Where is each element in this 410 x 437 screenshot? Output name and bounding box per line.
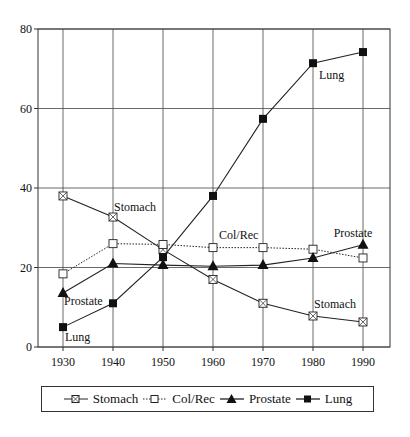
- y-tick-label: 0: [26, 340, 32, 354]
- annotation-label: Stomach: [114, 200, 156, 214]
- data-point: [59, 270, 67, 278]
- data-point: [209, 192, 217, 200]
- data-point: [209, 244, 217, 252]
- data-point: [109, 240, 117, 248]
- y-tick-label: 40: [20, 181, 32, 195]
- legend-item-prostate: Prostate: [219, 391, 291, 407]
- line-chart: 0204060801930194019501960197019801990 St…: [0, 0, 410, 380]
- annotation-label: Stomach: [314, 297, 356, 311]
- y-tick-label: 20: [20, 261, 32, 275]
- y-tick-label: 80: [20, 22, 32, 36]
- data-point: [359, 48, 367, 56]
- prostate-marker-icon: [219, 393, 245, 405]
- legend-item-stomach: Stomach: [63, 391, 139, 407]
- x-tick-label: 1980: [301, 355, 325, 369]
- annotation-label: Prostate: [64, 294, 103, 308]
- y-tick-label: 60: [20, 102, 32, 116]
- legend-item-colrec: Col/Rec: [142, 391, 215, 407]
- data-point: [108, 258, 119, 268]
- data-point: [208, 260, 219, 270]
- annotation-label: Prostate: [334, 226, 373, 240]
- annotation-label: Col/Rec: [219, 228, 258, 242]
- legend: Stomach Col/Rec Prostate Lung: [41, 386, 374, 412]
- data-point: [159, 240, 167, 248]
- x-tick-label: 1960: [201, 355, 225, 369]
- legend-label: Col/Rec: [172, 391, 215, 407]
- lung-marker-icon: [295, 393, 321, 405]
- legend-label: Prostate: [249, 391, 291, 407]
- data-point: [259, 115, 267, 123]
- annotation-label: Lung: [65, 330, 90, 344]
- data-point: [359, 254, 367, 262]
- legend-label: Lung: [325, 391, 352, 407]
- legend-label: Stomach: [93, 391, 139, 407]
- data-point: [309, 59, 317, 67]
- colrec-marker-icon: [142, 393, 168, 405]
- x-tick-label: 1940: [101, 355, 125, 369]
- x-tick-label: 1990: [351, 355, 375, 369]
- data-point: [358, 239, 369, 249]
- x-tick-label: 1930: [51, 355, 75, 369]
- data-point: [109, 299, 117, 307]
- x-tick-label: 1950: [151, 355, 175, 369]
- legend-item-lung: Lung: [295, 391, 352, 407]
- stomach-marker-icon: [63, 393, 89, 405]
- data-point: [159, 253, 167, 261]
- x-tick-label: 1970: [251, 355, 275, 369]
- data-point: [259, 244, 267, 252]
- annotation-label: Lung: [319, 68, 344, 82]
